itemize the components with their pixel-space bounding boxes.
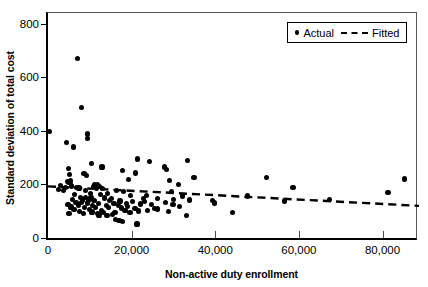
x-axis-tick <box>383 231 384 238</box>
legend-item-fitted: Fitted <box>341 27 400 39</box>
data-point <box>133 170 138 175</box>
filled-circle-icon <box>295 30 299 34</box>
data-point <box>134 221 139 226</box>
data-point <box>264 175 269 180</box>
data-point <box>47 129 52 134</box>
data-point <box>170 202 175 207</box>
scatter-chart-figure: Standard deviation of total cost Non-act… <box>0 0 428 287</box>
x-axis-title: Non-active duty enrollment <box>46 268 417 280</box>
y-axis-tick <box>41 24 48 25</box>
data-point <box>136 208 141 213</box>
data-point <box>155 206 160 211</box>
data-point <box>104 213 109 218</box>
x-axis-tick <box>132 231 133 238</box>
x-axis-tick-label: 40,000 <box>198 244 233 256</box>
dashed-line-icon <box>341 32 368 34</box>
y-axis-tick-label: 200 <box>0 178 39 190</box>
data-point <box>66 211 71 216</box>
data-point <box>110 212 115 217</box>
data-point <box>290 185 295 190</box>
legend-label-actual: Actual <box>303 27 334 39</box>
x-axis-tick-label: 20,000 <box>114 244 149 256</box>
data-point <box>81 211 86 216</box>
plot-area: 0200400600800020,00040,00060,00080,000 <box>46 12 417 240</box>
data-point <box>163 200 168 205</box>
data-point <box>187 197 192 202</box>
data-point <box>71 207 76 212</box>
data-point <box>191 175 196 180</box>
chart-legend: Actual Fitted <box>287 22 407 43</box>
legend-label-fitted: Fitted <box>372 27 400 39</box>
x-axis-tick <box>215 231 216 238</box>
data-point <box>64 140 69 145</box>
data-point <box>127 210 132 215</box>
data-point <box>212 200 217 205</box>
data-point <box>76 185 81 190</box>
data-point <box>147 159 152 164</box>
data-point <box>135 156 140 161</box>
data-point <box>128 193 133 198</box>
y-axis-tick-label: 800 <box>0 18 39 30</box>
data-point <box>138 201 143 206</box>
data-point <box>121 189 126 194</box>
data-point <box>96 212 101 217</box>
legend-item-actual: Actual <box>295 27 334 39</box>
y-axis-tick <box>41 77 48 78</box>
x-axis-tick-label: 0 <box>45 244 51 256</box>
data-point <box>94 186 99 191</box>
data-point <box>99 164 104 169</box>
y-axis-tick <box>41 184 48 185</box>
x-axis-tick-label: 60,000 <box>281 244 316 256</box>
x-axis-tick-label: 80,000 <box>365 244 400 256</box>
y-axis-tick-label: 600 <box>0 71 39 83</box>
data-point <box>89 209 94 214</box>
data-point <box>385 190 390 195</box>
data-point <box>176 182 181 187</box>
y-axis-tick <box>41 238 48 239</box>
x-axis-tick <box>299 231 300 238</box>
y-axis-tick-label: 0 <box>0 232 39 244</box>
data-point <box>180 193 185 198</box>
data-point <box>71 144 76 149</box>
data-point <box>245 193 250 198</box>
data-point <box>282 198 287 203</box>
data-point <box>402 176 407 181</box>
data-point <box>120 219 125 224</box>
y-axis-tick-label: 400 <box>0 125 39 137</box>
data-point <box>184 213 189 218</box>
data-point <box>83 188 88 193</box>
data-point <box>102 195 107 200</box>
